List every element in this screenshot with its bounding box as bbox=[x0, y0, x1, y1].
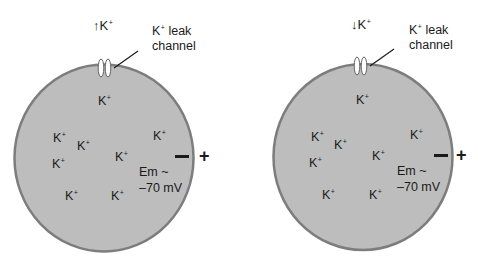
leak-channel-subunit-2 bbox=[361, 57, 367, 75]
ion-k: K+ bbox=[322, 185, 335, 202]
ion-k: K+ bbox=[372, 146, 385, 163]
ion-k: K+ bbox=[410, 125, 423, 142]
ion-k: K+ bbox=[311, 127, 324, 144]
cell-panel-right: ↓K+ K+ leak channel K+ K+ K+ K+ K+ K+ K+… bbox=[0, 0, 478, 267]
membrane-potential-label: Em ~ –70 mV bbox=[397, 163, 440, 195]
leak-channel-subunit-1 bbox=[354, 57, 360, 75]
k-flux-label: ↓K+ bbox=[351, 15, 371, 32]
outside-positive-sign: + bbox=[456, 146, 467, 164]
ion-k: K+ bbox=[356, 90, 369, 107]
ion-k: K+ bbox=[309, 153, 322, 170]
ion-k: K+ bbox=[334, 135, 347, 152]
ion-k: K+ bbox=[369, 185, 382, 202]
cell-diagram-right bbox=[0, 0, 478, 267]
leak-channel-label: K+ leak channel bbox=[409, 19, 453, 53]
channel-pointer-line bbox=[370, 49, 394, 66]
inside-negative-sign bbox=[434, 154, 448, 157]
